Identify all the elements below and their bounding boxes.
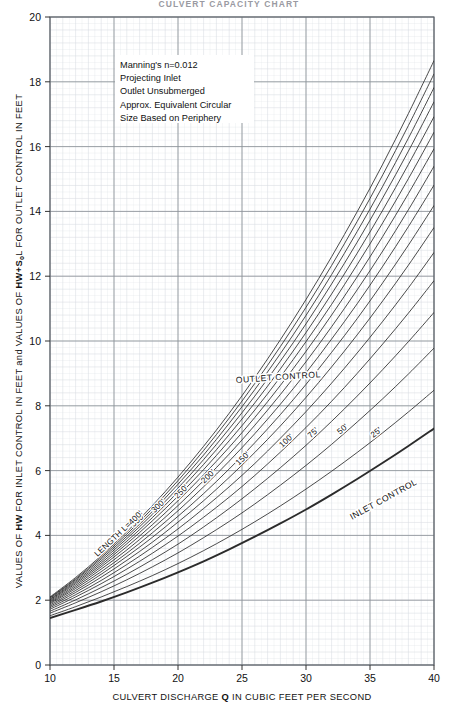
x-tick-label: 25	[236, 672, 248, 684]
x-tick-label: 10	[44, 672, 56, 684]
chart-svg: CULVERT CAPACITY CHART 25'25'50'50'75'75…	[0, 0, 458, 715]
y-tick-label: 18	[29, 76, 41, 88]
note-line-4: Approx. Equivalent Circular	[120, 100, 231, 110]
y-axis-title-hw-2: HW	[14, 272, 24, 288]
x-tick-label: 40	[428, 672, 440, 684]
y-tick-label: 0	[35, 659, 41, 671]
x-axis-title-post: IN CUBIC FEET PER SECOND	[229, 692, 371, 702]
note-line-3: Outlet Unsubmerged	[120, 86, 205, 96]
x-axis-title-symbol: Q	[222, 692, 230, 702]
note-line-5: Size Based on Periphery	[120, 113, 222, 123]
y-axis-title-pre: VALUES OF	[14, 531, 24, 589]
y-tick-label: 10	[29, 335, 41, 347]
x-tick-label: 30	[300, 672, 312, 684]
note-line-2: Projecting Inlet	[120, 73, 181, 83]
y-axis-title-tail: L FOR OUTLET CONTROL IN FEET	[14, 94, 24, 256]
y-tick-label: 20	[29, 11, 41, 23]
note-line-1: Manning's n=0.012	[120, 60, 198, 70]
x-tick-label: 20	[172, 672, 184, 684]
y-tick-label: 2	[35, 594, 41, 606]
y-tick-label: 14	[29, 205, 41, 217]
x-axis-title: CULVERT DISCHARGE Q IN CUBIC FEET PER SE…	[112, 692, 371, 702]
chart-top-title: CULVERT CAPACITY CHART	[159, 0, 300, 9]
y-tick-label: 8	[35, 400, 41, 412]
x-tick-label: 35	[364, 672, 376, 684]
y-tick-label: 16	[29, 141, 41, 153]
culvert-capacity-chart: CULVERT CAPACITY CHART 25'25'50'50'75'75…	[0, 0, 458, 715]
y-tick-label: 12	[29, 270, 41, 282]
y-axis-title-mid: FOR INLET CONTROL IN FEET and VALUES OF	[14, 289, 24, 515]
y-axis-title-hw-1: HW	[14, 514, 24, 530]
y-tick-label: 6	[35, 465, 41, 477]
notes-box: Manning's n=0.012Projecting InletOutlet …	[115, 55, 254, 123]
y-axis-title: VALUES OF HW FOR INLET CONTROL IN FEET a…	[14, 94, 25, 588]
y-tick-label: 4	[35, 529, 41, 541]
x-tick-label: 15	[108, 672, 120, 684]
y-axis-title-plus-s: +S	[14, 260, 24, 272]
x-axis-title-pre: CULVERT DISCHARGE	[112, 692, 221, 702]
